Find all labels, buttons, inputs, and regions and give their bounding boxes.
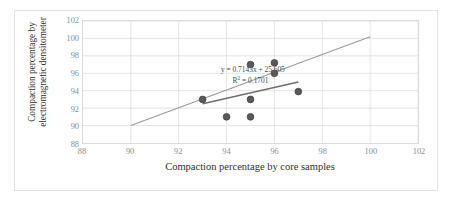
data-point — [247, 61, 254, 68]
x-axis-title: Compaction percentage by core samples — [75, 161, 425, 172]
data-point — [223, 113, 230, 120]
y-tick-label: 96 — [55, 69, 79, 78]
y-tick-label: 100 — [55, 33, 79, 42]
x-tick-label: 96 — [260, 147, 290, 156]
y-tick-label: 102 — [55, 16, 79, 25]
y-tick-label: 92 — [55, 104, 79, 113]
data-point — [247, 113, 254, 120]
y-tick-label: 90 — [55, 122, 79, 131]
y-tick-label: 94 — [55, 86, 79, 95]
y-tick-label: 98 — [55, 51, 79, 60]
x-tick-label: 98 — [308, 147, 338, 156]
x-tick-label: 100 — [356, 147, 386, 156]
x-tick-label: 102 — [404, 147, 434, 156]
x-tick-label: 92 — [163, 147, 193, 156]
plot-area: y = 0.7143x + 25.605R2 = 0.1701 — [82, 20, 419, 144]
data-point — [271, 59, 278, 66]
scatter-plot-svg: y = 0.7143x + 25.605R2 = 0.1701 — [83, 21, 418, 143]
x-tick-label: 94 — [211, 147, 241, 156]
r-squared: R2 = 0.1701 — [233, 75, 269, 85]
data-point — [271, 70, 278, 77]
x-tick-label: 88 — [67, 147, 97, 156]
data-point — [247, 96, 254, 103]
y-axis-title: Compaction percentage by electromagnetic… — [27, 0, 49, 147]
data-point — [295, 88, 302, 95]
x-tick-label: 90 — [115, 147, 145, 156]
chart-figure: Compaction percentage by electromagnetic… — [14, 10, 438, 191]
data-point — [199, 96, 206, 103]
